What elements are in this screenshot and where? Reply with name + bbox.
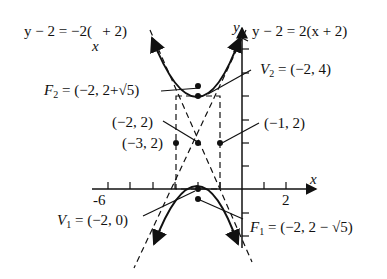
hyperbola-plot [0,0,387,279]
x-axis-label: x [310,172,317,187]
tick-label-2: 2 [282,193,290,208]
asymptote-right-label: y − 2 = 2(x + 2) [252,24,347,39]
asymptote-left-label: y − 2 = −2(x + 2) [24,24,127,39]
center-label: (−2, 2) [112,115,153,130]
vertex-v2-label: V2 = (−2, 4) [260,62,331,79]
focus-f1-label: F1 = (−2, 2 − √5) [250,220,353,237]
vertex-v1-label: V1 = (−2, 0) [57,213,128,230]
tick-label-neg6: -6 [93,193,106,208]
focus-f2-label: F2 = (−2, 2+√5) [44,83,139,100]
lower-branch [154,186,238,244]
y-axis-label: y [233,20,240,35]
right-point-label: (−1, 2) [264,116,305,131]
left-point-label: (−3, 2) [122,136,163,151]
